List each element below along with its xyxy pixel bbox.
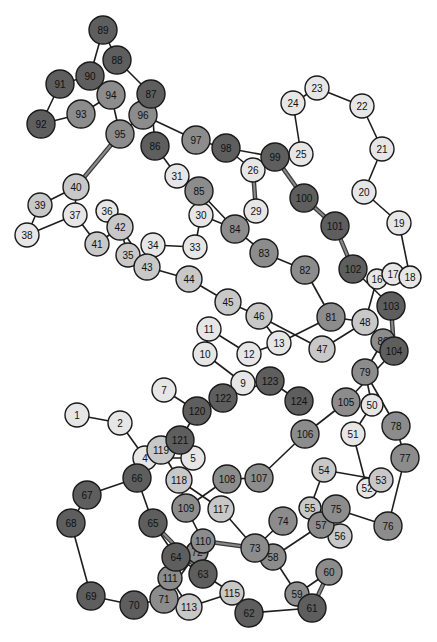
node-label: 13: [273, 338, 285, 349]
node-label: 17: [387, 269, 399, 280]
node-117: 117: [208, 496, 234, 522]
node-64: 64: [162, 543, 190, 571]
node-122: 122: [209, 384, 237, 412]
node-label: 18: [404, 272, 416, 283]
node-48: 48: [352, 309, 378, 335]
node-65: 65: [139, 509, 167, 537]
node-label: 30: [195, 210, 207, 221]
node-2: 2: [108, 411, 132, 435]
node-label: 121: [172, 435, 189, 446]
node-38: 38: [15, 223, 39, 247]
node-29: 29: [244, 199, 268, 223]
node-7: 7: [152, 378, 176, 402]
node-24: 24: [281, 91, 305, 115]
node-label: 103: [383, 301, 400, 312]
node-40: 40: [63, 174, 89, 200]
node-label: 124: [291, 396, 308, 407]
node-layer: 1245791011121316171819202122232425262930…: [15, 16, 421, 627]
node-107: 107: [245, 464, 273, 492]
node-62: 62: [235, 599, 263, 627]
node-label: 40: [70, 182, 82, 193]
node-label: 58: [267, 552, 279, 563]
node-label: 31: [171, 171, 183, 182]
node-label: 50: [366, 400, 378, 411]
node-label: 79: [359, 367, 371, 378]
node-60: 60: [316, 559, 342, 585]
node-label: 38: [21, 230, 33, 241]
node-88: 88: [103, 46, 131, 74]
node-label: 29: [250, 206, 262, 217]
node-label: 53: [375, 475, 387, 486]
node-label: 107: [251, 473, 268, 484]
node-42: 42: [107, 214, 133, 240]
node-label: 75: [330, 504, 342, 515]
node-label: 41: [91, 239, 103, 250]
node-label: 91: [54, 79, 66, 90]
node-label: 34: [147, 240, 159, 251]
node-label: 48: [359, 317, 371, 328]
node-61: 61: [298, 594, 326, 622]
node-50: 50: [361, 394, 383, 416]
node-13: 13: [267, 331, 291, 355]
node-label: 42: [114, 222, 126, 233]
node-label: 45: [222, 297, 234, 308]
node-label: 66: [131, 473, 143, 484]
node-label: 25: [295, 149, 307, 160]
node-label: 69: [85, 591, 97, 602]
node-39: 39: [28, 193, 52, 217]
node-label: 10: [199, 349, 211, 360]
node-37: 37: [63, 203, 87, 227]
node-label: 65: [147, 518, 159, 529]
node-105: 105: [332, 388, 360, 416]
node-106: 106: [291, 420, 319, 448]
node-87: 87: [137, 80, 165, 108]
node-label: 46: [253, 311, 265, 322]
node-label: 123: [262, 376, 279, 387]
node-label: 109: [178, 503, 195, 514]
node-label: 97: [190, 135, 202, 146]
node-label: 115: [224, 588, 240, 599]
node-98: 98: [212, 134, 240, 162]
node-76: 76: [374, 512, 402, 540]
node-label: 113: [181, 602, 197, 613]
node-45: 45: [215, 289, 241, 315]
node-label: 67: [81, 490, 93, 501]
node-12: 12: [237, 342, 261, 366]
node-10: 10: [193, 342, 217, 366]
node-103: 103: [377, 292, 405, 320]
node-label: 47: [316, 344, 328, 355]
node-66: 66: [123, 464, 151, 492]
node-label: 86: [149, 141, 161, 152]
node-104: 104: [380, 337, 408, 365]
node-label: 51: [347, 429, 359, 440]
node-label: 57: [315, 520, 327, 531]
node-41: 41: [85, 232, 109, 256]
node-97: 97: [182, 126, 210, 154]
node-54: 54: [312, 458, 336, 482]
node-22: 22: [350, 94, 374, 118]
node-label: 102: [345, 264, 362, 275]
node-label: 5: [190, 453, 196, 464]
node-124: 124: [285, 387, 313, 415]
node-label: 33: [189, 242, 201, 253]
node-label: 106: [297, 429, 314, 440]
node-label: 2: [117, 418, 123, 429]
node-label: 94: [105, 90, 117, 101]
node-21: 21: [370, 137, 394, 161]
node-20: 20: [352, 180, 376, 204]
node-label: 35: [122, 250, 134, 261]
node-label: 90: [84, 71, 96, 82]
node-120: 120: [183, 397, 211, 425]
node-label: 71: [158, 594, 170, 605]
node-93: 93: [67, 100, 95, 128]
node-label: 1: [74, 410, 80, 421]
node-label: 24: [287, 98, 299, 109]
node-53: 53: [369, 468, 393, 492]
node-label: 99: [269, 152, 281, 163]
node-33: 33: [183, 235, 207, 259]
node-73: 73: [241, 534, 269, 562]
node-label: 111: [162, 573, 178, 584]
node-label: 22: [356, 101, 368, 112]
node-123: 123: [256, 367, 284, 395]
node-79: 79: [352, 359, 378, 385]
